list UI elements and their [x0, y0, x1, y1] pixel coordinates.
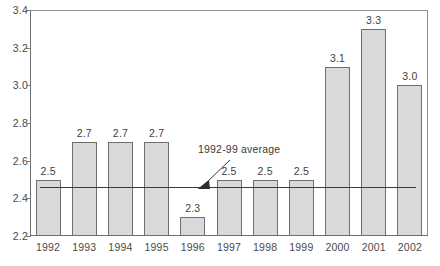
- bar: [361, 29, 386, 236]
- x-axis-tick-label: 1995: [137, 241, 177, 253]
- bar-value-label: 2.3: [175, 202, 211, 215]
- bar: [144, 142, 169, 236]
- x-axis-tick-label: 1994: [100, 241, 140, 253]
- bar-value-label: 2.5: [247, 165, 283, 178]
- bar: [36, 180, 61, 237]
- bar: [397, 85, 422, 236]
- bar: [253, 180, 278, 237]
- y-axis-tick-label: 3.0: [0, 79, 28, 91]
- bar: [72, 142, 97, 236]
- bar-value-label: 2.5: [283, 165, 319, 178]
- y-axis-tick-label: 2.2: [0, 230, 28, 242]
- y-axis-tick-mark: [26, 48, 31, 49]
- x-axis-tick-label: 2001: [354, 241, 394, 253]
- y-axis-tick-mark: [26, 85, 31, 86]
- average-annotation-label: 1992-99 average: [198, 143, 280, 155]
- y-axis-tick-label: 2.4: [0, 192, 28, 204]
- x-axis-tick-label: 2000: [318, 241, 358, 253]
- x-axis-tick-label: 1999: [281, 241, 321, 253]
- y-axis-tick-label: 2.8: [0, 117, 28, 129]
- y-axis-tick-mark: [26, 161, 31, 162]
- x-axis-tick-label: 1997: [209, 241, 249, 253]
- x-axis-tick-label: 2002: [390, 241, 430, 253]
- y-axis-tick-label: 3.2: [0, 42, 28, 54]
- x-axis-tick-label: 1992: [28, 241, 68, 253]
- bar-chart: 2.22.42.62.83.03.23.4 2.52.72.72.72.32.5…: [0, 0, 440, 266]
- y-axis-tick-mark: [26, 10, 31, 11]
- bar-value-label: 2.7: [66, 127, 102, 140]
- x-axis-tick-label: 1998: [245, 241, 285, 253]
- y-axis-tick-mark: [26, 198, 31, 199]
- y-axis-tick-mark: [26, 236, 31, 237]
- bar: [180, 217, 205, 236]
- bar: [108, 142, 133, 236]
- y-axis-tick-label: 2.6: [0, 155, 28, 167]
- bar: [325, 67, 350, 237]
- y-axis-tick-label: 3.4: [0, 4, 28, 16]
- bar-value-label: 3.1: [320, 52, 356, 65]
- bar: [289, 180, 314, 237]
- x-axis-tick-label: 1993: [64, 241, 104, 253]
- bar-value-label: 3.3: [356, 14, 392, 27]
- annotation-arrow-icon: [195, 158, 235, 192]
- bar-value-label: 2.7: [102, 127, 138, 140]
- y-axis-tick-mark: [26, 123, 31, 124]
- bar-value-label: 2.5: [30, 165, 66, 178]
- x-axis-tick-label: 1996: [173, 241, 213, 253]
- bar-value-label: 2.7: [139, 127, 175, 140]
- bar-value-label: 3.0: [392, 70, 428, 83]
